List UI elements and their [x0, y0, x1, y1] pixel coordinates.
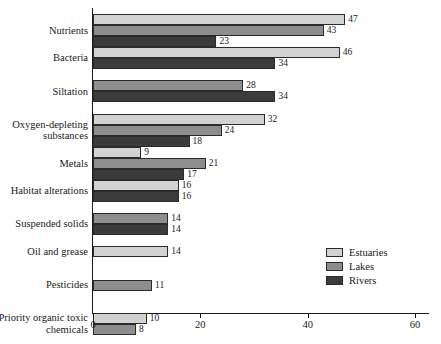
bar-estuaries: [93, 114, 265, 125]
bar-value-label: 24: [225, 124, 235, 136]
bar-rivers: [93, 58, 275, 69]
bar-rivers: [93, 36, 216, 47]
bar-chart: Nutrients474323Bacteria4634Siltation2834…: [0, 0, 441, 344]
category-label: Priority organic toxic chemicals: [0, 312, 88, 335]
bar-estuaries: [93, 47, 340, 58]
legend-item: Lakes: [326, 260, 388, 273]
legend-label: Rivers: [349, 275, 376, 286]
category-label: Metals: [0, 158, 88, 170]
bar-rivers: [93, 224, 168, 235]
x-axis-tick: [308, 313, 309, 318]
bar-lakes: [93, 80, 243, 91]
legend-label: Estuaries: [349, 247, 388, 258]
bar-track: 14: [93, 224, 429, 235]
legend-swatch-rivers: [326, 276, 343, 285]
bar-value-label: 8: [139, 323, 144, 335]
bar-track: 47: [93, 14, 429, 25]
bar-value-label: 11: [155, 279, 164, 291]
category-group: Oxygen-depleting substances322418: [0, 114, 441, 147]
x-axis-tick-label: 0: [90, 319, 95, 330]
category-label: Nutrients: [0, 25, 88, 37]
bar-lakes: [93, 280, 152, 291]
category-label: Bacteria: [0, 52, 88, 64]
chart-legend: EstuariesLakesRivers: [326, 246, 388, 288]
category-group: Metals92117: [0, 147, 441, 180]
bar-value-label: 43: [327, 24, 337, 36]
bar-track: 23: [93, 36, 429, 47]
bar-value-label: 34: [278, 57, 288, 69]
bar-lakes: [93, 324, 136, 335]
bar-rivers: [93, 136, 190, 147]
bar-estuaries: [93, 14, 345, 25]
bar-value-label: 21: [209, 157, 219, 169]
bar-track: 8: [93, 324, 429, 335]
bar-track: 14: [93, 213, 429, 224]
bar-track: 16: [93, 180, 429, 191]
category-group: Suspended solids1414: [0, 213, 441, 235]
category-group: Siltation2834: [0, 80, 441, 102]
bar-lakes: [93, 125, 222, 136]
bar-rivers: [93, 169, 184, 180]
bar-track: 46: [93, 47, 429, 58]
category-group: Bacteria4634: [0, 47, 441, 69]
legend-label: Lakes: [349, 261, 374, 272]
bar-rivers: [93, 91, 275, 102]
bar-value-label: 28: [246, 79, 256, 91]
bar-value-label: 10: [150, 312, 160, 324]
bar-value-label: 9: [144, 146, 149, 158]
bar-track: 9: [93, 147, 429, 158]
category-label: Oil and grease: [0, 246, 88, 258]
bar-value-label: 17: [187, 168, 197, 180]
category-label: Oxygen-depleting substances: [0, 119, 88, 142]
x-axis-tick-label: 40: [302, 319, 313, 330]
category-label: Siltation: [0, 86, 88, 98]
bar-track: 16: [93, 191, 429, 202]
bar-value-label: 34: [278, 90, 288, 102]
x-axis-tick: [93, 313, 94, 318]
bar-value-label: 47: [348, 13, 358, 25]
x-axis-tick: [200, 313, 201, 318]
category-label: Suspended solids: [0, 218, 88, 230]
category-label: Habitat alterations: [0, 185, 88, 197]
bar-value-label: 23: [219, 35, 229, 47]
category-group: Priority organic toxic chemicals108: [0, 313, 441, 335]
x-axis-tick-label: 60: [410, 319, 421, 330]
x-axis-tick-label: 20: [195, 319, 206, 330]
legend-item: Rivers: [326, 274, 388, 287]
category-group: Nutrients474323: [0, 14, 441, 47]
bar-track: 34: [93, 91, 429, 102]
bar-track: 28: [93, 80, 429, 91]
legend-swatch-estuaries: [326, 248, 343, 257]
bar-value-label: 16: [182, 190, 192, 202]
bar-track: 34: [93, 58, 429, 69]
bar-lakes: [93, 25, 324, 36]
bar-track: 17: [93, 169, 429, 180]
bar-estuaries: [93, 246, 168, 257]
bar-track: 21: [93, 158, 429, 169]
bar-track: 43: [93, 25, 429, 36]
legend-swatch-lakes: [326, 262, 343, 271]
bar-value-label: 14: [171, 245, 181, 257]
bar-value-label: 32: [268, 113, 278, 125]
bar-estuaries: [93, 180, 179, 191]
bar-estuaries: [93, 147, 141, 158]
bar-value-label: 46: [343, 46, 353, 58]
bar-value-label: 18: [193, 135, 203, 147]
category-label: Pesticides: [0, 279, 88, 291]
x-axis-tick: [415, 313, 416, 318]
bar-value-label: 14: [171, 223, 181, 235]
legend-item: Estuaries: [326, 246, 388, 259]
bar-track: 32: [93, 114, 429, 125]
category-group: Habitat alterations1616: [0, 180, 441, 202]
bar-lakes: [93, 213, 168, 224]
bar-rivers: [93, 191, 179, 202]
bar-track: 24: [93, 125, 429, 136]
